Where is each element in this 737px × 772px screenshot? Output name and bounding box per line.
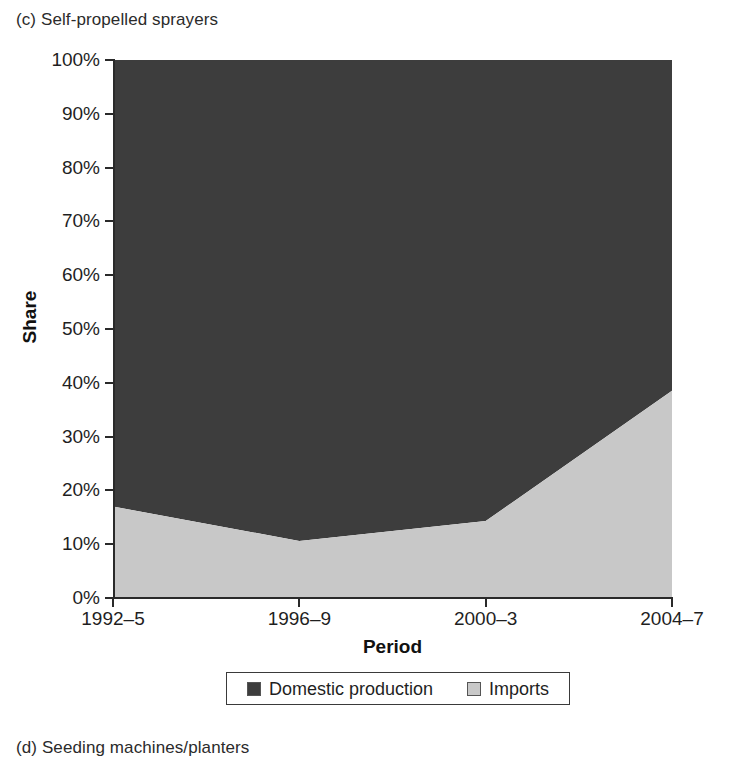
figure-caption-d: (d) Seeding machines/planters: [16, 738, 249, 758]
x-axis-line: [112, 597, 673, 599]
x-tick-label: 1996–9: [268, 608, 331, 630]
legend-entry-imports[interactable]: Imports: [467, 680, 549, 698]
stacked-area-svg: [113, 60, 672, 598]
y-tick-90pct: [105, 113, 113, 115]
x-tick-2: [485, 599, 487, 607]
y-tick-40pct: [105, 382, 113, 384]
legend-label: Imports: [489, 680, 549, 698]
x-tick-0: [112, 599, 114, 607]
x-axis-title: Period: [113, 636, 672, 658]
y-tick-label: 50%: [34, 318, 100, 340]
y-tick-label: 90%: [34, 103, 100, 125]
y-tick-label: 60%: [34, 264, 100, 286]
y-tick-20pct: [105, 489, 113, 491]
y-tick-label: 10%: [34, 533, 100, 555]
x-tick-1: [298, 599, 300, 607]
y-tick-label: 0%: [34, 587, 100, 609]
y-tick-label: 20%: [34, 479, 100, 501]
x-tick-label: 2000–3: [454, 608, 517, 630]
y-tick-label: 100%: [34, 49, 100, 71]
y-tick-60pct: [105, 274, 113, 276]
y-tick-30pct: [105, 436, 113, 438]
x-tick-3: [671, 599, 673, 607]
y-tick-50pct: [105, 328, 113, 330]
y-tick-100pct: [105, 59, 113, 61]
x-tick-label: 1992–5: [81, 608, 144, 630]
y-tick-70pct: [105, 220, 113, 222]
plot-area: [113, 60, 672, 598]
legend-entry-domestic-production[interactable]: Domestic production: [247, 680, 433, 698]
y-axis-line: [113, 59, 115, 599]
y-tick-label: 70%: [34, 210, 100, 232]
legend-label: Domestic production: [269, 680, 433, 698]
y-tick-label: 40%: [34, 372, 100, 394]
legend-swatch-icon: [467, 682, 481, 696]
y-tick-label: 30%: [34, 426, 100, 448]
chart-legend: Domestic productionImports: [226, 672, 570, 705]
legend-swatch-icon: [247, 682, 261, 696]
y-tick-10pct: [105, 543, 113, 545]
chart-figure: 0%10%20%30%40%50%60%70%80%90%100% 1992–5…: [0, 0, 737, 730]
y-axis-title: Share: [19, 272, 41, 362]
y-tick-80pct: [105, 167, 113, 169]
y-tick-label: 80%: [34, 157, 100, 179]
x-tick-label: 2004–7: [640, 608, 703, 630]
